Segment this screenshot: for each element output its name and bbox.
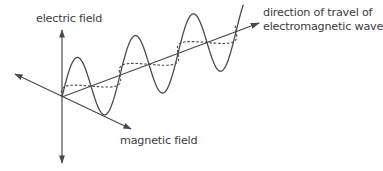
direction-label-line1: direction of travel of — [263, 6, 383, 20]
magnetic-wave-dashed — [61, 25, 236, 97]
magnetic-field-axis — [15, 74, 131, 129]
propagation-direction-arrow — [62, 23, 259, 97]
direction-label-line2: electromagnetic wave — [263, 20, 383, 34]
magnetic-field-label: magnetic field — [120, 134, 197, 148]
electric-field-label: electric field — [36, 12, 102, 26]
direction-of-travel-label: direction of travel of electromagnetic w… — [263, 6, 383, 34]
